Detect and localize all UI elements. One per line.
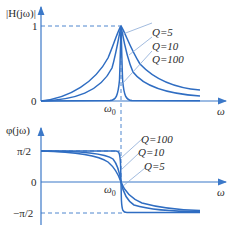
magnitude-y-label: |H(jω)| [6, 7, 36, 20]
phase-plot: φ(jω) π/2 0 −π/2 ω0 ω Q=100 Q=10 Q=5 [6, 124, 226, 225]
label-q5: Q=5 [152, 26, 173, 38]
label-phase-q100: Q=100 [141, 133, 173, 145]
tick-pi2: π/2 [17, 145, 31, 157]
tick-one: 1 [32, 20, 38, 32]
label-phase-q5: Q=5 [144, 160, 165, 172]
magnitude-plot: |H(jω)| 1 0 ω0 ω Q=5 Q=10 Q=100 [6, 7, 226, 182]
tick-minus-pi2: −π/2 [13, 207, 33, 219]
label-q100: Q=100 [152, 53, 184, 65]
tick-zero: 0 [31, 95, 37, 107]
phase-omega0-label: ω0 [104, 183, 116, 198]
leader-q10 [129, 37, 152, 55]
leader-q5 [123, 23, 152, 34]
tick-phase-zero: 0 [31, 176, 37, 188]
label-q10: Q=10 [152, 40, 179, 52]
label-phase-q10: Q=10 [138, 146, 165, 158]
phase-y-label: φ(jω) [6, 124, 30, 137]
phase-x-label: ω [217, 186, 225, 198]
leader-q100 [122, 51, 152, 84]
leader-phase-q5 [123, 168, 145, 186]
omega0-label: ω0 [104, 102, 116, 117]
resonance-chart: |H(jω)| 1 0 ω0 ω Q=5 Q=10 Q=100 φ(jω) π/… [0, 0, 237, 235]
magnitude-x-label: ω [217, 105, 225, 117]
